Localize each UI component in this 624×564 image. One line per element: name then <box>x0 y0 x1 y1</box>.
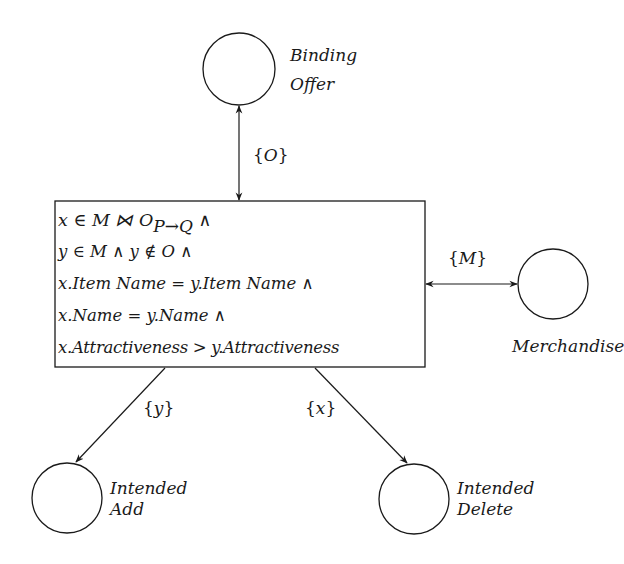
label-intended-delete: Intended Delete <box>457 478 534 520</box>
edge-var-y: y <box>154 398 164 418</box>
brace-close: } <box>476 248 487 268</box>
label-intended-add-line2: Add <box>110 499 187 520</box>
label-intended-add: Intended Add <box>110 478 187 520</box>
guard-line-2: y ∈ M ∧ y ∉ O ∧ <box>58 236 339 268</box>
label-intended-delete-line1: Intended <box>457 478 534 499</box>
guard-and: ∧ <box>193 210 211 230</box>
place-binding-offer <box>203 33 275 105</box>
place-merchandise <box>518 249 588 319</box>
edge-var-x: x <box>316 398 326 418</box>
guard-line-3: x.Item Name = y.Item Name ∧ <box>58 268 339 300</box>
label-intended-delete-line2: Delete <box>457 499 534 520</box>
edge-label-x: {x} <box>305 398 336 418</box>
label-merchandise: Merchandise <box>512 336 624 357</box>
place-intended-delete <box>379 464 449 534</box>
edge-label-O: {O} <box>253 145 289 165</box>
place-intended-add <box>32 463 102 533</box>
edge-var-O: O <box>264 145 278 165</box>
brace-open: { <box>305 398 316 418</box>
guard-join-expr: x ∈ M ⋈ O <box>58 210 153 230</box>
brace-close: } <box>325 398 336 418</box>
edge-var-M: M <box>459 248 476 268</box>
guard-line-5: x.Attractiveness > y.Attractiveness <box>58 332 339 364</box>
brace-open: { <box>143 398 154 418</box>
brace-open: { <box>253 145 264 165</box>
label-binding-offer: Binding Offer <box>290 45 357 95</box>
transition-guard: x ∈ M ⋈ OP→Q ∧ y ∈ M ∧ y ∉ O ∧ x.Item Na… <box>58 204 339 364</box>
label-intended-add-line1: Intended <box>110 478 187 499</box>
label-binding-offer-line1: Binding <box>290 45 357 66</box>
guard-line-4: x.Name = y.Name ∧ <box>58 300 339 332</box>
edge-label-M: {M} <box>448 248 487 268</box>
label-binding-offer-line2: Offer <box>290 74 357 95</box>
guard-join-subscript: P→Q <box>153 216 193 236</box>
edge-label-y: {y} <box>143 398 174 418</box>
guard-line-1: x ∈ M ⋈ OP→Q ∧ <box>58 204 339 236</box>
brace-close: } <box>163 398 174 418</box>
brace-close: } <box>278 145 289 165</box>
brace-open: { <box>448 248 459 268</box>
